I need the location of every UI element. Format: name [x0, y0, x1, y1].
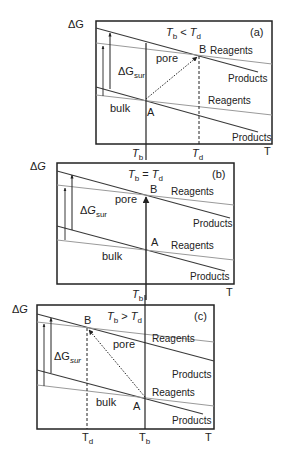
- bulk-products-label: Products: [232, 132, 271, 143]
- y-axis-label: ΔG: [30, 160, 46, 172]
- bulk-products-label: Products: [190, 271, 229, 282]
- y-axis-label: ΔG: [12, 303, 28, 315]
- panel-c: ΔG T (c) Tb > Td ΔGsur pore bulk A B Rea…: [12, 295, 214, 446]
- svg-text:Tb > Td: Tb > Td: [107, 310, 142, 325]
- bulk-reagents-label: Reagents: [208, 95, 251, 106]
- gibbs-energy-diagram: ΔG T (a) Tb < Td ΔGsur pore bulk A B Rea…: [0, 0, 288, 456]
- pore-label: pore: [113, 338, 135, 350]
- bulk-reagents-label: Reagents: [171, 240, 214, 251]
- bulk-reagents-label: Reagents: [152, 387, 195, 398]
- td-tick-label: Td: [192, 147, 203, 162]
- panel-tag: (a): [250, 26, 263, 38]
- point-b-label: B: [84, 314, 91, 326]
- panel-b: ΔG T (b) Tb = Td ΔGsur pore bulk A B Rea…: [30, 160, 234, 303]
- bulk-label: bulk: [110, 102, 131, 114]
- bulk-products-label: Products: [172, 415, 211, 426]
- bulk-label: bulk: [96, 396, 117, 408]
- condition-label: Tb < Td: [166, 26, 201, 41]
- pore-products-label: Products: [172, 369, 211, 380]
- pore-reagents-label: Reagents: [171, 186, 214, 197]
- x-axis-label: T: [226, 286, 233, 298]
- bulk-label: bulk: [102, 250, 123, 262]
- point-b-label: B: [150, 183, 157, 195]
- tb-tick-label: Tb: [139, 431, 151, 446]
- panel-tag: (b): [212, 168, 225, 180]
- pore-label: pore: [115, 193, 137, 205]
- condition-label: Tb = Td: [128, 168, 163, 183]
- x-axis-label: T: [205, 431, 212, 443]
- point-b-label: B: [199, 43, 206, 55]
- svg-text:Tb < Td: Tb < Td: [166, 26, 201, 41]
- delta-g-sur-label: ΔGsur: [118, 65, 145, 80]
- y-axis-label: ΔG: [68, 18, 84, 30]
- x-axis-label: T: [264, 145, 271, 157]
- panel-tag: (c): [194, 310, 207, 322]
- delta-g-sur-label: ΔGsur: [54, 350, 81, 365]
- pore-reagents-label: Reagents: [152, 333, 195, 344]
- svg-text:Tb = Td: Tb = Td: [128, 168, 163, 183]
- tb-tick-label: Tb: [132, 147, 144, 162]
- td-tick-label: Td: [82, 431, 93, 446]
- pore-products-label: Products: [193, 218, 232, 229]
- condition-label: Tb > Td: [107, 310, 142, 325]
- pore-label: pore: [156, 52, 178, 64]
- point-a-label: A: [133, 400, 141, 412]
- delta-g-sur-label: ΔGsur: [80, 204, 107, 219]
- point-a-label: A: [151, 236, 159, 248]
- tb-tick-label: Tb: [132, 288, 144, 303]
- pore-reagents-label: Reagents: [210, 45, 253, 56]
- point-a-label: A: [147, 106, 155, 118]
- panel-a: ΔG T (a) Tb < Td ΔGsur pore bulk A B Rea…: [68, 18, 272, 162]
- pore-products-label: Products: [228, 73, 267, 84]
